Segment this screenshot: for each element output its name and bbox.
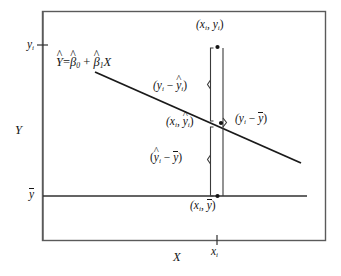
regression-yhat: y <box>154 152 159 164</box>
regression-annotation: (yi − y) <box>150 152 182 165</box>
observed-label-mid: , y <box>207 18 218 30</box>
regression-close: ) <box>178 151 182 163</box>
mean-point-label: (xi, y) <box>190 200 216 213</box>
equation-equals: = <box>63 55 70 69</box>
total-minus: − <box>246 112 258 124</box>
observed-label-close: ) <box>220 18 224 30</box>
fitted-label-open: (x <box>166 115 175 127</box>
equation-plus: + <box>83 55 90 69</box>
regression-ybar: y <box>173 152 178 164</box>
y-tick-yi-sub: i <box>32 44 34 52</box>
regression-equation: Y=β0 + β1X <box>56 56 111 70</box>
equation-beta0: β <box>70 56 76 69</box>
x-tick-label-xi: xi <box>211 246 218 259</box>
mean-label-open: (x <box>190 199 199 211</box>
observed-point-label: (xi, yi) <box>196 19 224 32</box>
residual-close: ) <box>183 79 187 91</box>
regression-decomposition-figure <box>0 0 341 276</box>
total-open: (y <box>235 112 244 124</box>
x-tick-xi-sub: i <box>216 251 218 259</box>
figure-background <box>0 0 341 276</box>
y-tick-label-ybar: y <box>29 189 34 201</box>
equation-beta1: β <box>93 56 99 69</box>
mean-label-close: ) <box>212 199 216 211</box>
mean-point-marker <box>215 194 219 198</box>
fitted-label-yhat: y <box>183 116 188 128</box>
residual-minus: − <box>164 79 176 91</box>
y-tick-label-yi: yi <box>27 39 34 52</box>
fitted-point-marker <box>219 121 223 125</box>
observed-label-open: (x <box>196 18 205 30</box>
residual-annotation: (yi − yi) <box>153 80 187 93</box>
residual-open: (y <box>153 79 162 91</box>
fitted-point-label: (xi, yi) <box>166 116 194 129</box>
mean-label-ybar: y <box>207 200 212 212</box>
observed-point-marker <box>215 45 219 49</box>
equation-beta0-sub: 0 <box>76 61 80 70</box>
regression-minus: − <box>161 151 173 163</box>
y-tick-ybar-base: y <box>29 189 34 201</box>
total-deviation-annotation: (yi − y) <box>235 113 267 126</box>
residual-yhat: y <box>176 80 181 92</box>
total-ybar: y <box>258 113 263 125</box>
total-close: ) <box>263 112 267 124</box>
y-axis-title: Y <box>15 124 22 137</box>
fitted-label-close: ) <box>190 115 194 127</box>
equation-x: X <box>104 55 112 69</box>
equation-lhs: Y <box>56 56 63 69</box>
x-axis-title: X <box>173 251 181 264</box>
